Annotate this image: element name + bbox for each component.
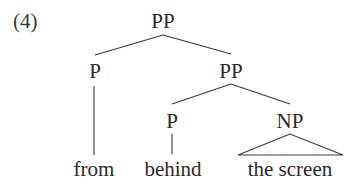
inner-pp-node: PP	[219, 59, 242, 83]
example-number: (4)	[13, 9, 38, 33]
branch-pp-to-p	[172, 84, 231, 104]
np-triangle	[238, 134, 343, 155]
np-node: NP	[277, 109, 304, 133]
syntax-tree-diagram: (4) PP P PP P NP from behind the screen	[0, 0, 354, 192]
p-node-from: P	[89, 59, 101, 83]
p-node-behind: P	[166, 109, 178, 133]
branch-pp-to-np	[231, 84, 290, 104]
leaf-behind: behind	[144, 157, 202, 181]
root-pp-node: PP	[151, 9, 174, 33]
branch-root-to-p	[95, 35, 163, 55]
leaf-from: from	[74, 157, 115, 181]
leaf-the-screen: the screen	[248, 157, 333, 181]
branch-root-to-pp	[163, 35, 231, 54]
